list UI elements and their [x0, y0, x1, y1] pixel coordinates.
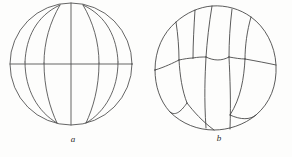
figure-a-left-meridian-upper: [25, 5, 60, 62]
figure-b-caption: b: [146, 133, 292, 143]
figure-b-wall-lower-left-rim: [170, 103, 187, 114]
figure-b-wall-equator-center: [206, 57, 229, 60]
figure-a-right-meridian-lower: [86, 62, 118, 123]
figure-b-wall-upper-right-mid: [245, 17, 251, 59]
figure-b-wall-equator-right-outer: [245, 59, 276, 65]
figure-b-wall-equator-center-left: [193, 57, 206, 58]
figure-a-left-inner-curve-lower: [44, 63, 57, 123]
figure-b-wall-lower-center-right: [229, 57, 230, 129]
figure-a-right-inner-curve-lower: [86, 63, 99, 123]
illustration-plate: a: [0, 0, 292, 157]
figure-b-wall-upper-left-mid: [193, 10, 195, 58]
figure-b-wall-equator-left-outer: [155, 60, 179, 70]
figure-b-wall-upper-left-outer: [176, 22, 179, 60]
figure-b-wall-upper-center-right: [229, 9, 232, 57]
figure-a-right-meridian-upper: [83, 5, 118, 62]
figure-panel-a: a: [0, 0, 146, 157]
figure-panel-b: b: [146, 0, 292, 157]
figure-b-wall-equator-left: [179, 58, 193, 60]
figure-a-left-meridian-lower: [25, 62, 57, 123]
figure-b-wall-lower-left-outer: [179, 60, 187, 103]
figure-b-wall-equator-center-right: [229, 57, 245, 59]
figure-a-caption: a: [0, 134, 146, 144]
figure-b-wall-lower-center-left: [205, 57, 206, 128]
figure-b-wall-lower-right: [230, 59, 245, 115]
figure-b-outline: [155, 6, 276, 130]
figure-b-wall-upper-center-left: [206, 6, 212, 57]
